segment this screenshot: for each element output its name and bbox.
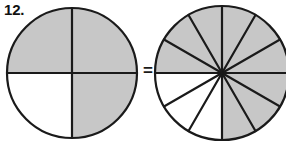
worksheet-figure-stage: 12. = [0,0,286,147]
left-circle-quarters [7,8,137,138]
equals-sign: = [140,62,156,80]
right-circle-twelfths [155,6,286,140]
